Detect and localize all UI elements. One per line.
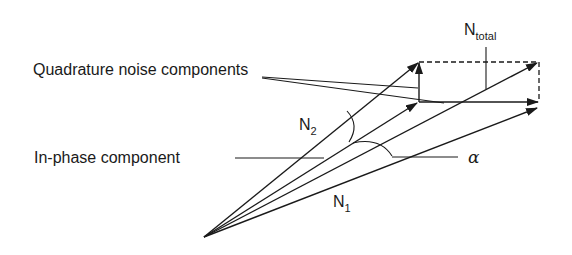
label-inphase: In-phase component [34,149,180,166]
dashed-parallelogram [419,62,539,102]
label-n1: N1 [333,193,351,214]
leader-quadrature-2 [262,78,444,103]
vector-n2 [204,63,418,237]
label-alpha: α [468,147,480,167]
vector-ntotal [204,63,537,237]
label-n2: N2 [299,116,317,137]
vector-n1 [204,108,537,237]
label-quadrature: Quadrature noise components [33,61,248,78]
phasor-diagram: Quadrature noise components In-phase com… [0,0,572,255]
label-ntotal: Ntotal [464,21,496,42]
